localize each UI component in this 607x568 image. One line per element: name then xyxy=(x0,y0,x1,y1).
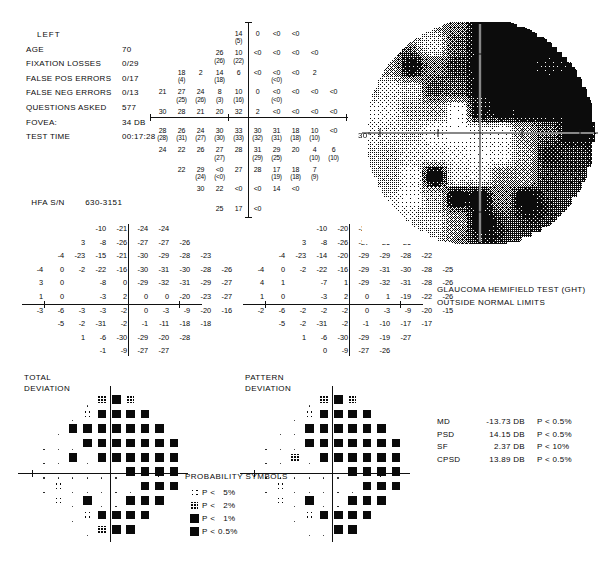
glaucoma-hemifield-test-block: GLAUCOMA HEMIFIELD TEST (GHT) OUTSIDE NO… xyxy=(437,284,586,309)
deviation-value: -2 xyxy=(306,306,327,315)
threshold-value: 10 xyxy=(229,88,248,95)
threshold-retest-value: (30) xyxy=(210,134,229,141)
threshold-cell: 31(31) xyxy=(267,127,286,142)
threshold-cell: <0 xyxy=(286,69,305,76)
threshold-value: <0 xyxy=(267,69,286,76)
threshold-retest-value: (<0) xyxy=(210,173,229,180)
threshold-value: <0 xyxy=(286,108,305,115)
deviation-value: -20 xyxy=(411,306,432,315)
threshold-retest-value: (31) xyxy=(172,134,191,141)
deviation-value: -27 xyxy=(127,346,148,355)
deviation-value: 2 xyxy=(327,292,348,301)
threshold-value: 17 xyxy=(229,205,248,212)
grayscale-map-canvas xyxy=(362,22,598,244)
symbol-p005 xyxy=(363,511,372,520)
legend-row: P < 1% xyxy=(185,512,288,525)
symbol-p5 xyxy=(54,496,63,505)
threshold-cell: <0 xyxy=(267,108,286,115)
threshold-value: 18 xyxy=(286,127,305,134)
deviation-value: 0 xyxy=(148,292,169,301)
symbol-p005 xyxy=(334,410,343,419)
deviation-value: -30 xyxy=(390,265,411,274)
deviation-value: -28 xyxy=(411,278,432,287)
global-index-row: CPSD13.89 DBP < 0.5% xyxy=(437,455,572,464)
global-index-row: PSD14.15 DBP < 0.5% xyxy=(437,430,572,439)
test-parameter-label: FOVEA: xyxy=(26,116,122,131)
threshold-value: 8 xyxy=(210,88,229,95)
threshold-value: 27 xyxy=(229,166,248,173)
threshold-cell: 27 xyxy=(229,166,248,173)
threshold-cell: <0 xyxy=(305,49,324,56)
deviation-value: -28 xyxy=(169,251,190,260)
symbol-p005 xyxy=(305,496,314,505)
test-parameter-row: FALSE POS ERRORS0/17 xyxy=(26,72,156,87)
axis-tick xyxy=(228,114,229,121)
probability-cell xyxy=(334,520,343,538)
symbol-p005 xyxy=(112,410,121,419)
deviation-row: -5-2-31-2-1-11-18-18 xyxy=(43,319,211,328)
symbol-p005 xyxy=(170,439,179,448)
deviation-value: 2 xyxy=(106,292,127,301)
symbol-p005 xyxy=(112,453,121,462)
probability-cell xyxy=(320,448,329,466)
ght-result: OUTSIDE NORMAL LIMITS xyxy=(437,297,586,310)
symbol-p005 xyxy=(320,453,329,462)
grayscale-degree-label: 30° xyxy=(358,131,371,140)
symbol-p005 xyxy=(363,410,372,419)
symbol-p005 xyxy=(141,410,150,419)
threshold-cell: <0 xyxy=(305,88,324,95)
symbol-p005 xyxy=(112,424,121,433)
threshold-retest-value: (25) xyxy=(172,96,191,103)
deviation-value: -14 xyxy=(306,251,327,260)
vertical-meridian-axis xyxy=(110,386,111,542)
symbol-p005 xyxy=(363,467,372,476)
ght-title: GLAUCOMA HEMIFIELD TEST (GHT) xyxy=(437,284,586,297)
symbol-p005 xyxy=(348,424,357,433)
test-parameter-value: 577 xyxy=(122,101,136,116)
threshold-value: <0 xyxy=(248,185,267,192)
threshold-retest-value: (5) xyxy=(229,37,248,44)
threshold-value: <0 xyxy=(267,88,286,95)
deviation-value: -1 xyxy=(127,319,148,328)
probability-cell xyxy=(363,505,372,523)
deviation-value: -16 xyxy=(106,265,127,274)
deviation-row: -5-2-31-2-1-10-17-17 xyxy=(264,319,432,328)
symbol-p005 xyxy=(83,424,92,433)
symbol-p1 xyxy=(334,395,343,404)
symbol-p005 xyxy=(392,439,401,448)
threshold-cell: 24 xyxy=(153,146,172,153)
threshold-cell: 20 xyxy=(286,146,305,153)
deviation-value: -29 xyxy=(369,251,390,260)
deviation-row: -2-6-2-2-20-3-9-20-15 xyxy=(243,306,453,315)
deviation-value: -29 xyxy=(127,333,148,342)
threshold-cell: 31(29) xyxy=(248,146,267,161)
test-parameter-row: AGE70 xyxy=(26,43,156,58)
symbol-p005 xyxy=(320,424,329,433)
threshold-value: 2 xyxy=(191,69,210,76)
deviation-value: -32 xyxy=(369,278,390,287)
test-parameter-row: FIXATION LOSSES0/29 xyxy=(26,57,156,72)
legend-symbol-text: P < 0.5% xyxy=(202,527,238,536)
deviation-value: -17 xyxy=(390,319,411,328)
threshold-cell: 2 xyxy=(191,69,210,76)
deviation-value: 0 xyxy=(43,265,64,274)
global-index-value: 2.37 DB xyxy=(471,442,525,451)
deviation-value: -27 xyxy=(211,278,232,287)
deviation-value: -31 xyxy=(169,278,190,287)
threshold-cell: 32 xyxy=(229,108,248,115)
threshold-value: 18 xyxy=(172,69,191,76)
test-parameter-label: TEST TIME xyxy=(26,130,122,145)
threshold-value: 21 xyxy=(191,108,210,115)
deviation-value: -23 xyxy=(285,251,306,260)
deviation-value: 3 xyxy=(64,238,85,247)
threshold-cell: <0 xyxy=(267,49,286,56)
probability-cell xyxy=(305,505,314,523)
deviation-value: -4 xyxy=(43,251,64,260)
symbol-p005 xyxy=(98,439,107,448)
threshold-value: 26 xyxy=(210,49,229,56)
probability-cell xyxy=(98,520,107,538)
threshold-cell: 24(26) xyxy=(191,88,210,103)
legend-row: P < 5% xyxy=(185,486,288,499)
legend-symbol-swatch xyxy=(185,488,199,497)
symbol-p005 xyxy=(126,511,135,520)
